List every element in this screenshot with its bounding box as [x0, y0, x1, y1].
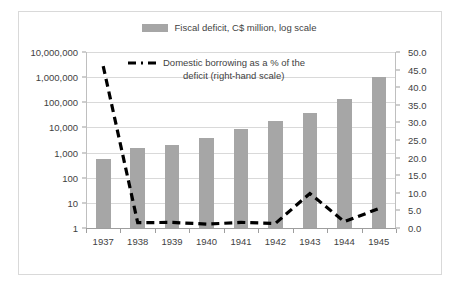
x-axis-tick-label-1942: 1942	[265, 236, 286, 247]
x-axis-tick-label-1943: 1943	[299, 236, 320, 247]
y-axis-left-tick-mark	[82, 77, 86, 78]
x-axis-tick-mark	[155, 229, 156, 233]
y-axis-right-tick-label: 30.0	[408, 117, 427, 128]
y-axis-left-tick-label: 100,000	[44, 97, 78, 108]
y-axis-left-tick-label: 10	[67, 197, 78, 208]
y-axis-left-tick-label: 1,000,000	[36, 72, 78, 83]
y-axis-left-tick-label: 1	[73, 223, 78, 234]
y-axis-right-tick-label: 15.0	[408, 170, 427, 181]
y-axis-right-tick-mark	[396, 210, 400, 211]
legend-bar-series: Fiscal deficit, C$ million, log scale	[0, 22, 459, 34]
x-axis-tick-label-1945: 1945	[368, 236, 389, 247]
y-axis-right: 0.05.010.015.020.025.030.035.040.045.050…	[400, 52, 456, 228]
y-axis-left-tick-mark	[82, 52, 86, 53]
x-axis-tick-label-1944: 1944	[334, 236, 355, 247]
y-axis-left-tick-label: 100	[62, 172, 78, 183]
y-axis-right-tick-label: 25.0	[408, 135, 427, 146]
x-axis-tick-mark	[120, 229, 121, 233]
y-axis-left-tick-label: 10,000,000	[30, 47, 78, 58]
y-axis-left-tick-mark	[82, 177, 86, 178]
y-axis-left-tick-mark	[82, 152, 86, 153]
y-axis-right-tick-mark	[396, 175, 400, 176]
legend-bar-label: Fiscal deficit, C$ million, log scale	[174, 22, 316, 33]
y-axis-right-tick-label: 10.0	[408, 187, 427, 198]
x-axis-tick-mark	[224, 229, 225, 233]
y-axis-left-tick-label: 10,000	[49, 122, 78, 133]
x-axis-tick-mark	[362, 229, 363, 233]
x-axis-tick-mark	[396, 229, 397, 233]
y-axis-left-tick-mark	[82, 127, 86, 128]
y-axis-right-tick-mark	[396, 228, 400, 229]
x-axis-tick-label-1938: 1938	[127, 236, 148, 247]
x-axis-tick-label-1941: 1941	[230, 236, 251, 247]
y-axis-right-tick-label: 35.0	[408, 99, 427, 110]
x-axis-tick-mark	[258, 229, 259, 233]
domestic-borrowing-line	[103, 66, 379, 224]
x-axis: 193719381939194019411942194319441945	[86, 229, 396, 253]
legend-bar-swatch	[142, 24, 168, 32]
y-axis-right-tick-label: 0.0	[408, 223, 421, 234]
y-axis-left-tick-mark	[82, 202, 86, 203]
y-axis-left: 1101001,00010,000100,0001,000,00010,000,…	[8, 52, 82, 228]
y-axis-right-tick-label: 5.0	[408, 205, 421, 216]
x-axis-tick-mark	[327, 229, 328, 233]
y-axis-right-tick-mark	[396, 157, 400, 158]
y-axis-right-tick-label: 45.0	[408, 64, 427, 75]
y-axis-right-tick-label: 50.0	[408, 47, 427, 58]
y-axis-right-tick-mark	[396, 87, 400, 88]
legend-line-dash-icon	[127, 58, 161, 68]
x-axis-tick-label-1940: 1940	[196, 236, 217, 247]
x-axis-tick-mark	[86, 229, 87, 233]
y-axis-right-tick-mark	[396, 69, 400, 70]
x-axis-tick-label-1939: 1939	[162, 236, 183, 247]
x-axis-tick-mark	[293, 229, 294, 233]
x-axis-tick-label-1937: 1937	[93, 236, 114, 247]
y-axis-right-tick-label: 20.0	[408, 152, 427, 163]
y-axis-right-tick-label: 40.0	[408, 82, 427, 93]
x-axis-tick-mark	[189, 229, 190, 233]
legend-line-label-part1: Domestic borrowing as a % of the	[163, 57, 305, 68]
y-axis-right-tick-mark	[396, 104, 400, 105]
y-axis-left-tick-label: 1,000	[54, 147, 78, 158]
y-axis-right-tick-mark	[396, 122, 400, 123]
chart-container: Fiscal deficit, C$ million, log scale 11…	[0, 0, 459, 292]
legend-line-series: Domestic borrowing as a % of the deficit…	[127, 57, 387, 82]
legend-line-label-part2: deficit (right-hand scale)	[183, 70, 387, 83]
y-axis-left-tick-mark	[82, 102, 86, 103]
y-axis-left-tick-mark	[82, 228, 86, 229]
y-axis-right-tick-mark	[396, 140, 400, 141]
y-axis-right-tick-mark	[396, 52, 400, 53]
y-axis-right-tick-mark	[396, 192, 400, 193]
